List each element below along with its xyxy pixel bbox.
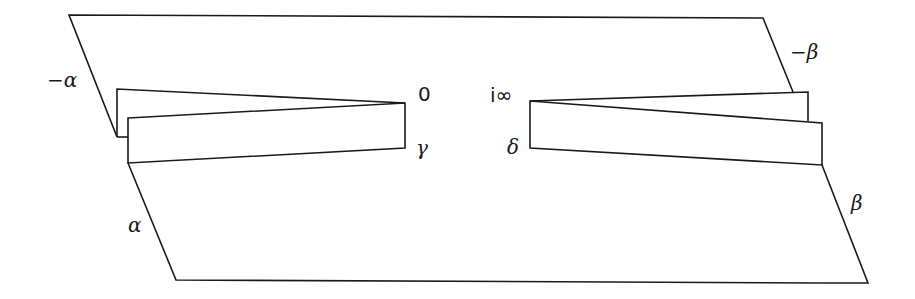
label-beta: β xyxy=(851,193,863,213)
outer-top-edge xyxy=(69,15,793,137)
label-i-infinity: i∞ xyxy=(490,85,512,105)
left-rectangle xyxy=(128,103,405,163)
label-zero: 0 xyxy=(418,84,431,104)
label-delta: δ xyxy=(507,137,519,157)
label-alpha: α xyxy=(128,215,142,235)
label-gamma: γ xyxy=(416,138,428,158)
right-rectangle xyxy=(530,101,822,165)
diagram-canvas xyxy=(0,0,915,299)
label-neg-beta: −β xyxy=(790,42,818,62)
outer-bottom-edge xyxy=(128,163,868,283)
label-neg-alpha: −α xyxy=(47,70,77,90)
right-upper-flap xyxy=(530,92,808,121)
left-upper-flap xyxy=(117,89,405,137)
